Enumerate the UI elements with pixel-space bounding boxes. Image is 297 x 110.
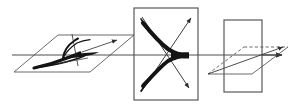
cusp-focal-bar [171,52,189,58]
panel-middle [134,8,198,100]
figure-canvas [0,0,297,110]
caustic-cusp-figure: Evolution of a cusp caustic across three… [0,0,297,110]
